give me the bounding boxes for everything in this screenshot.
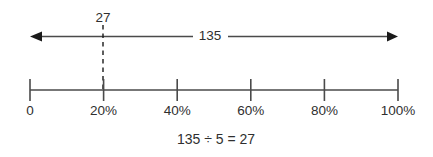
tick-label-20: 20% [90, 104, 117, 118]
tick-label-60: 60% [237, 104, 264, 118]
tick-label-100: 100% [381, 104, 416, 118]
arrowhead-right-icon [387, 32, 398, 42]
equation-caption: 135 ÷ 5 = 27 [177, 132, 255, 146]
tick-label-40: 40% [164, 104, 191, 118]
tick-label-0: 0 [26, 104, 34, 118]
tick-label-80: 80% [311, 104, 338, 118]
point-value-label: 27 [95, 11, 110, 25]
percent-number-line-figure: 27 135 0 20% 40% 60% 80% 100% 135 ÷ 5 = … [0, 0, 433, 157]
span-total-label: 135 [199, 29, 222, 43]
arrowhead-left-icon [30, 32, 42, 42]
